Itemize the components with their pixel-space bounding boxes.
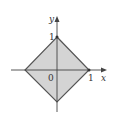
y-axis-label: y xyxy=(48,14,55,24)
diagram-canvas: y 1 0 1 x xyxy=(0,0,113,118)
y-axis-arrow-icon xyxy=(55,16,60,22)
x-axis-arrow-icon xyxy=(101,68,107,73)
origin-label: 0 xyxy=(48,73,54,83)
top-vertex-dot xyxy=(56,36,59,39)
x-axis-label: x xyxy=(101,73,106,83)
right-vertex-dot xyxy=(88,69,91,72)
y-tick-label: 1 xyxy=(49,32,55,42)
x-tick-label: 1 xyxy=(88,73,94,83)
